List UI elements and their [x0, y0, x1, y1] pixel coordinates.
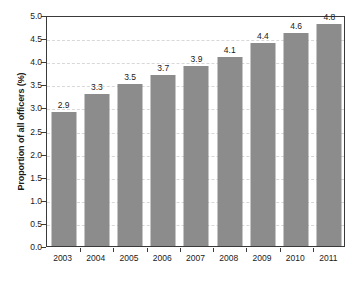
x-axis-tick-mark: [213, 248, 214, 252]
bar-chart: Proportion of all officers (%) 0.00.51.0…: [0, 0, 358, 281]
x-axis-tick-mark: [280, 248, 281, 252]
bar[interactable]: [84, 94, 109, 246]
bar-slot: 3.3: [80, 17, 113, 246]
y-axis-tick-label: 2.0: [18, 150, 42, 159]
y-axis-tick-label: 0.5: [18, 220, 42, 229]
bar[interactable]: [184, 66, 209, 246]
bar-value-label: 4.1: [224, 46, 236, 55]
bar[interactable]: [118, 84, 143, 246]
bar-slot: 4.4: [246, 17, 279, 246]
y-axis-tick-label: 0.0: [18, 243, 42, 252]
y-axis-tick-mark: [41, 155, 46, 156]
y-axis-tick-mark: [41, 224, 46, 225]
x-axis-tick-label: 2008: [219, 253, 238, 263]
x-axis-tick-mark: [80, 248, 81, 252]
bar-value-label: 3.3: [91, 83, 103, 92]
y-axis-tick-mark: [41, 247, 46, 248]
x-axis-tick-mark: [180, 248, 181, 252]
plot-area: 2.93.33.53.73.94.14.44.64.8: [46, 16, 345, 247]
y-axis-tick-label: 3.5: [18, 81, 42, 90]
x-axis-tick-label: 2010: [286, 253, 305, 263]
bar-value-label: 4.8: [323, 13, 335, 22]
x-axis-tick-label: 2006: [153, 253, 172, 263]
x-axis-tick-label: 2003: [53, 253, 72, 263]
x-axis-tick-label: 2005: [120, 253, 139, 263]
bar[interactable]: [51, 112, 76, 246]
x-axis-tick-label: 2004: [86, 253, 105, 263]
y-axis-tick-mark: [41, 39, 46, 40]
bar-slot: 3.9: [180, 17, 213, 246]
x-axis-tick-mark: [313, 248, 314, 252]
y-axis-tick-label: 4.0: [18, 58, 42, 67]
bar-slot: 4.1: [213, 17, 246, 246]
bar-value-label: 4.4: [257, 32, 269, 41]
bar-slot: 4.8: [313, 17, 346, 246]
bar-value-label: 3.7: [157, 64, 169, 73]
bar-slot: 4.6: [280, 17, 313, 246]
bar[interactable]: [317, 24, 342, 246]
bar-value-label: 3.5: [124, 73, 136, 82]
x-axis-tick-mark: [147, 248, 148, 252]
y-axis-tick-mark: [41, 178, 46, 179]
bar-slot: 3.5: [113, 17, 146, 246]
y-axis-tick-label-group: 0.00.51.01.52.02.53.03.54.04.55.0: [18, 16, 42, 247]
y-axis-tick-mark: [41, 201, 46, 202]
y-axis-tick-mark: [41, 62, 46, 63]
x-axis-tick-label: 2009: [252, 253, 271, 263]
y-axis-tick-label: 1.0: [18, 197, 42, 206]
y-axis-tick-label: 2.5: [18, 127, 42, 136]
y-axis-tick-label: 4.5: [18, 35, 42, 44]
x-axis-tick-mark: [246, 248, 247, 252]
bar-value-label: 3.9: [191, 55, 203, 64]
bar-value-label: 2.9: [58, 101, 70, 110]
x-axis-tick-label: 2007: [186, 253, 205, 263]
bar-slot: 3.7: [147, 17, 180, 246]
y-axis-tick-mark: [41, 16, 46, 17]
x-axis-tick-mark: [113, 248, 114, 252]
y-axis-tick-mark: [41, 132, 46, 133]
bar-group: 2.93.33.53.73.94.14.44.64.8: [47, 17, 344, 246]
y-axis-tick-label: 1.5: [18, 173, 42, 182]
x-axis-tick-label: 2011: [319, 253, 337, 263]
bar[interactable]: [151, 75, 176, 246]
y-axis-tick-label: 3.0: [18, 104, 42, 113]
bar[interactable]: [217, 57, 242, 246]
y-axis-tick-mark: [41, 108, 46, 109]
y-axis-tick-mark: [41, 85, 46, 86]
bar-slot: 2.9: [47, 17, 80, 246]
y-axis-tick-label: 5.0: [18, 12, 42, 21]
bar-value-label: 4.6: [290, 22, 302, 31]
bar[interactable]: [250, 43, 275, 246]
bar[interactable]: [284, 33, 309, 246]
x-axis-tick-label-group: 200320042005200620072008200920102011: [46, 253, 345, 267]
